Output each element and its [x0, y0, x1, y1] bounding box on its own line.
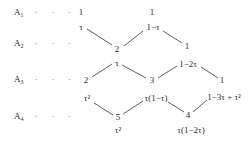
row-dots-a2: · · · — [35, 39, 77, 49]
weight-below-4: τ(1−2τ) — [177, 125, 204, 135]
diagram-edges — [0, 0, 249, 144]
edge-2-to-tau — [92, 64, 112, 77]
edge-tau-to-2 — [87, 29, 112, 45]
weight-below-5: τ² — [115, 125, 121, 135]
node-r4-left: 5 — [116, 112, 121, 122]
node-r1-right: 1 — [150, 7, 155, 17]
weight-1mtau: 1−τ — [146, 22, 159, 32]
node-r3-left: 2 — [84, 75, 89, 85]
weight-1m3tau: 1−3τ + τ² — [207, 92, 241, 102]
weight-tau1mtau: τ(1−τ) — [145, 93, 168, 103]
edge-tau-to-3 — [122, 65, 146, 78]
row-label-subscript: 3 — [21, 79, 24, 85]
node-r2-right: 1 — [185, 41, 190, 51]
row-label-a4: A4 — [14, 111, 24, 124]
row-label-a2: A2 — [14, 38, 24, 51]
row-dots-a1: · · · — [35, 8, 77, 18]
row-dots-a3: · · · — [35, 75, 77, 85]
edge-4-to-1m3tau — [193, 100, 207, 112]
weight-tau-2: τ — [115, 58, 119, 68]
node-r3-right: 1 — [220, 75, 225, 85]
row-label-a1: A1 — [14, 7, 24, 20]
row-label-subscript: 4 — [21, 116, 24, 122]
edge-1mtau-to-1 — [163, 31, 182, 43]
edge-3-to-1m2tau — [158, 66, 177, 78]
row-label-subscript: 2 — [21, 43, 24, 49]
weight-1m2tau: 1−2τ — [179, 59, 197, 69]
node-r4-right: 4 — [186, 110, 191, 120]
lattice-diagram: A1 · · · A2 · · · A3 · · · A4 · · · 1 1 … — [0, 0, 249, 144]
row-dots-a4: · · · — [35, 112, 77, 122]
weight-tau2-left: τ² — [84, 93, 90, 103]
node-r2-mid: 2 — [115, 44, 120, 54]
node-r3-mid: 3 — [150, 75, 155, 85]
edge-1m2tau-to-1 — [201, 67, 218, 78]
row-label-a3: A3 — [14, 74, 24, 87]
edge-tau2-to-5 — [94, 103, 113, 115]
edge-2-to-1mtau — [124, 31, 143, 46]
edge-tau1mtau-to-4 — [168, 102, 184, 112]
weight-tau-1: τ — [79, 22, 83, 32]
row-label-subscript: 1 — [21, 12, 24, 18]
node-r1-left: 1 — [79, 7, 84, 17]
edge-5-to-tau1mtau — [123, 101, 143, 114]
